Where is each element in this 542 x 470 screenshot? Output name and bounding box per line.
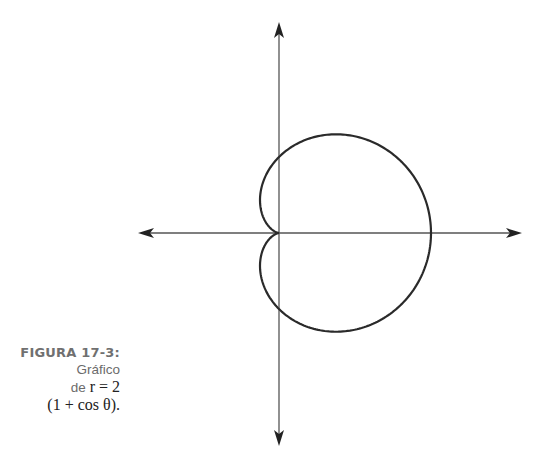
caption-line-1: Gráfico — [0, 361, 120, 378]
caption-line-3: (1 + cos θ). — [0, 396, 120, 413]
caption-line-2: de r = 2 — [0, 378, 120, 396]
caption-prefix: de — [71, 380, 90, 395]
axes — [138, 22, 522, 446]
figure-caption: FIGURA 17-3: Gráfico de r = 2 (1 + cos θ… — [0, 344, 120, 413]
figure-label: FIGURA 17-3: — [0, 344, 120, 361]
caption-equation: r = 2 — [90, 378, 120, 395]
